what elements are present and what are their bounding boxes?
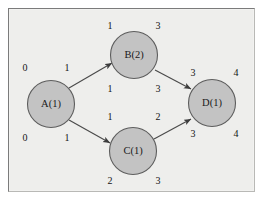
annotation-node-c-top-left: 1 [108,111,113,122]
annotation-node-a-top-left: 0 [23,62,28,73]
annotation-node-c-bottom-left: 2 [108,175,113,186]
node-d-label: D(1) [202,97,222,109]
annotation-node-d-bottom-right: 4 [234,128,239,139]
annotation-node-b-top-right: 3 [156,20,161,31]
annotation-node-b-bottom-right: 3 [156,83,161,94]
annotation-node-d-bottom-left: 3 [191,128,196,139]
node-c[interactable]: C(1) [110,128,157,175]
annotation-node-d-top-right: 4 [234,67,239,78]
annotation-node-c-bottom-right: 3 [156,175,161,186]
annotation-node-b-top-left: 1 [108,20,113,31]
diagram-canvas: A(1) B(2) C(1) D(1) 0 1 0 1 1 3 1 3 1 2 … [0,0,266,207]
node-a-label: A(1) [41,98,61,110]
network-graph: A(1) B(2) C(1) D(1) 0 1 0 1 1 3 1 3 1 2 … [0,0,266,207]
annotation-node-d-top-left: 3 [191,67,196,78]
node-a[interactable]: A(1) [28,81,75,128]
annotation-node-a-bottom-right: 1 [65,132,70,143]
edge-a-to-c [69,120,110,143]
annotation-node-b-bottom-left: 1 [108,83,113,94]
node-b[interactable]: B(2) [111,32,158,79]
node-c-label: C(1) [123,145,143,157]
edge-a-to-b [69,63,112,88]
node-b-label: B(2) [124,49,144,61]
annotation-node-c-top-right: 2 [156,111,161,122]
annotation-node-a-top-right: 1 [65,62,70,73]
node-d[interactable]: D(1) [189,80,236,127]
annotation-node-a-bottom-left: 0 [23,132,28,143]
